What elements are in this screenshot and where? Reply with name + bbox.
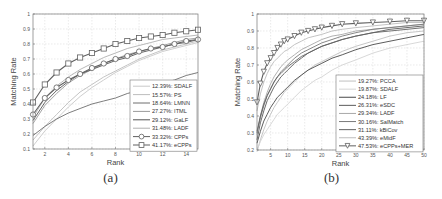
legend-entry: 26.31%: eSDC — [358, 102, 395, 108]
x-axis-label: Rank — [332, 159, 350, 168]
legend-entry: 12.39%: SDALF — [152, 83, 193, 89]
circle-marker — [66, 77, 71, 82]
triangle-down-marker — [292, 34, 297, 39]
legend-entry: 31.48%: LADF — [152, 125, 189, 131]
svg-text:10: 10 — [136, 151, 142, 157]
legend: 19.27%: PCCA19.87%: SDALF24.18%: LF26.31… — [336, 75, 423, 152]
svg-text:0.9: 0.9 — [23, 26, 30, 32]
svg-text:0.7: 0.7 — [23, 56, 30, 62]
svg-text:0.7: 0.7 — [247, 62, 254, 68]
svg-text:25: 25 — [336, 152, 342, 158]
triangle-down-marker — [261, 69, 266, 74]
legend-entry: 30.16%: SalMatch — [358, 119, 403, 125]
svg-text:0.8: 0.8 — [247, 45, 254, 51]
square-marker — [148, 34, 153, 39]
svg-text:50: 50 — [421, 152, 427, 158]
x-axis-label: Rank — [107, 158, 125, 167]
square-marker — [136, 35, 141, 40]
chart-panel-a: 24681012140.10.20.30.40.50.60.70.80.91Ra… — [0, 0, 221, 199]
circle-marker — [78, 71, 83, 76]
circle-marker — [160, 44, 165, 49]
circle-marker — [184, 38, 189, 43]
circle-marker — [172, 41, 177, 46]
legend-entry: 19.87%: SDALF — [358, 86, 399, 92]
svg-text:0.4: 0.4 — [247, 113, 254, 119]
svg-text:1: 1 — [27, 11, 30, 17]
legend-entry: 29.12%: GaLF — [152, 117, 189, 123]
svg-text:14: 14 — [183, 151, 189, 157]
svg-text:0.5: 0.5 — [247, 96, 254, 102]
chart-panel-b: 51015202530354045500.20.30.40.50.60.70.8… — [221, 0, 442, 199]
legend-entry: 31.11%: kBiCov — [358, 127, 398, 133]
svg-text:6: 6 — [91, 151, 94, 157]
square-marker — [160, 32, 165, 37]
svg-text:0.1: 0.1 — [23, 146, 30, 152]
legend-entry: 43.39%: eMidF — [358, 135, 396, 141]
circle-marker — [139, 134, 144, 139]
svg-text:35: 35 — [370, 152, 376, 158]
square-marker — [113, 41, 118, 46]
svg-text:0.8: 0.8 — [23, 41, 30, 47]
circle-marker — [148, 46, 153, 51]
legend-entry: 33.32%: CPPs — [152, 134, 189, 140]
circle-marker — [125, 53, 130, 58]
square-marker — [172, 30, 177, 35]
svg-text:20: 20 — [319, 152, 325, 158]
svg-text:30: 30 — [353, 152, 359, 158]
svg-text:0.6: 0.6 — [247, 79, 254, 85]
svg-text:0.9: 0.9 — [247, 28, 254, 34]
chart-b-plot: 51015202530354045500.20.30.40.50.60.70.8… — [221, 0, 442, 170]
square-marker — [125, 38, 130, 43]
circle-marker — [42, 95, 47, 100]
svg-text:45: 45 — [404, 152, 410, 158]
svg-text:40: 40 — [387, 152, 393, 158]
svg-text:12: 12 — [160, 151, 166, 157]
svg-text:5: 5 — [269, 152, 272, 158]
square-marker — [54, 70, 59, 75]
legend-entry: 27.27%: ITML — [152, 108, 187, 114]
legend: 12.39%: SDALF15.57%: PS18.64%: LMNN27.27… — [130, 80, 197, 151]
legend-entry: 15.57%: PS — [152, 92, 182, 98]
circle-marker — [54, 85, 59, 90]
legend-entry: 29.34%: LADF — [358, 110, 395, 116]
circle-marker — [136, 49, 141, 54]
svg-text:0.3: 0.3 — [247, 130, 254, 136]
y-axis-label: Matching Rate — [233, 58, 242, 106]
caption-b: (b) — [221, 170, 442, 186]
svg-text:0.4: 0.4 — [23, 101, 30, 107]
svg-text:4: 4 — [67, 151, 70, 157]
caption-a: (a) — [0, 170, 221, 186]
svg-text:0.2: 0.2 — [247, 147, 254, 153]
svg-text:0.2: 0.2 — [23, 131, 30, 137]
legend-entry: 24.18%: LF — [358, 94, 387, 100]
legend-entry: 19.27%: PCCA — [358, 78, 396, 84]
svg-text:15: 15 — [302, 152, 308, 158]
square-marker — [184, 29, 189, 34]
square-marker — [78, 55, 83, 60]
legend-entry: 41.17%: eCPPs — [152, 142, 192, 148]
circle-marker — [113, 56, 118, 61]
svg-text:0.3: 0.3 — [23, 116, 30, 122]
svg-text:1: 1 — [251, 11, 254, 17]
square-marker — [89, 50, 94, 55]
svg-text:8: 8 — [114, 151, 117, 157]
svg-text:10: 10 — [285, 152, 291, 158]
legend-entry: 18.64%: LMNN — [152, 100, 190, 106]
svg-text:2: 2 — [43, 151, 46, 157]
chart-a-plot: 24681012140.10.20.30.40.50.60.70.80.91Ra… — [0, 0, 221, 170]
square-marker — [66, 61, 71, 66]
circle-marker — [101, 61, 106, 66]
y-axis-label: Matching Rate — [9, 57, 18, 105]
svg-text:0.6: 0.6 — [23, 71, 30, 77]
square-marker — [42, 82, 47, 87]
square-marker — [139, 143, 144, 148]
legend-entry: 47.53%: eCPPs+MER — [358, 143, 413, 149]
square-marker — [101, 46, 106, 51]
circle-marker — [89, 65, 94, 70]
svg-text:0.5: 0.5 — [23, 86, 30, 92]
